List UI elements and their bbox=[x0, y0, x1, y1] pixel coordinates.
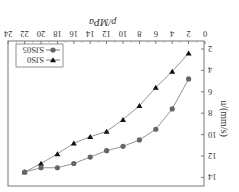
x-tick-label: 4 bbox=[169, 29, 174, 39]
legend-label: SJS05 bbox=[23, 45, 44, 55]
x-tick-label: 20 bbox=[37, 29, 46, 39]
x-tick-label: 16 bbox=[70, 29, 79, 39]
circle-marker bbox=[104, 148, 109, 153]
legend: SJS0SJS05 bbox=[16, 44, 63, 67]
y-axis-ticks: 2468101214 bbox=[201, 44, 217, 182]
circle-marker bbox=[22, 169, 27, 174]
circle-marker bbox=[38, 165, 43, 170]
circle-marker bbox=[153, 127, 158, 132]
triangle-marker bbox=[87, 134, 93, 139]
circle-marker bbox=[88, 154, 93, 159]
y-tick-label: 12 bbox=[208, 151, 217, 161]
y-tick-label: 10 bbox=[208, 130, 217, 140]
y-tick-label: 2 bbox=[208, 44, 212, 54]
y-tick-label: 8 bbox=[208, 108, 212, 118]
x-tick-label: 0 bbox=[203, 29, 207, 39]
legend-label: SJS0 bbox=[27, 55, 44, 65]
y-tick-label: 4 bbox=[207, 65, 212, 75]
y-tick-label: 6 bbox=[208, 87, 212, 97]
x-axis-ticks: 024681012141618202224 bbox=[3, 29, 207, 44]
circle-marker bbox=[120, 144, 125, 149]
circle-marker bbox=[50, 47, 55, 52]
triangle-marker bbox=[186, 51, 192, 56]
x-axis-label: p/MPa bbox=[89, 17, 117, 28]
x-tick-label: 2 bbox=[186, 29, 190, 39]
x-tick-label: 24 bbox=[3, 29, 12, 39]
y-axis-label: u/(mm/s) bbox=[218, 100, 230, 137]
circle-marker bbox=[170, 106, 175, 111]
rotated-line-chart: 024681012141618202224 2468101214 p/MPa u… bbox=[0, 0, 239, 192]
circle-marker bbox=[137, 137, 142, 142]
x-tick-label: 18 bbox=[53, 29, 62, 39]
series-sjs0 bbox=[22, 51, 192, 175]
data-series bbox=[22, 51, 192, 175]
circle-marker bbox=[186, 76, 191, 81]
x-tick-label: 12 bbox=[102, 29, 111, 39]
triangle-marker bbox=[38, 161, 44, 166]
x-tick-label: 22 bbox=[20, 29, 29, 39]
x-tick-label: 6 bbox=[154, 29, 158, 39]
x-tick-label: 8 bbox=[137, 29, 141, 39]
circle-marker bbox=[71, 161, 76, 166]
circle-marker bbox=[55, 165, 60, 170]
x-tick-label: 14 bbox=[85, 29, 94, 39]
triangle-marker bbox=[71, 140, 77, 145]
triangle-marker bbox=[54, 151, 60, 156]
y-tick-label: 14 bbox=[207, 172, 216, 182]
x-tick-label: 10 bbox=[119, 29, 128, 39]
